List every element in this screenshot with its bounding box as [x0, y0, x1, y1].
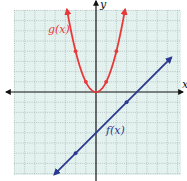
data-point [125, 100, 129, 104]
data-point [104, 80, 108, 84]
data-point [115, 49, 119, 53]
x-axis-label: x [182, 78, 187, 91]
y-axis-label: y [99, 0, 107, 11]
data-point [84, 80, 88, 84]
g-label: g(x) [48, 23, 70, 36]
coordinate-plane: x y g(x) f(x) [0, 0, 187, 181]
data-point [74, 49, 78, 53]
data-point [74, 151, 78, 155]
f-label: f(x) [105, 124, 125, 137]
